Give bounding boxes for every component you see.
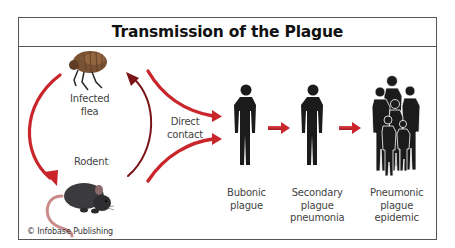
label-line: plague (227, 200, 266, 213)
label-line: plague (370, 200, 423, 213)
label-line: flea (70, 106, 109, 119)
label-line: Bubonic (227, 187, 266, 200)
curved-arrow-icon (29, 75, 60, 186)
label-line: contact (167, 129, 203, 142)
human-silhouette-icon (234, 85, 256, 166)
label-line: plague (290, 200, 344, 213)
direct-contact-label: Direct contact (167, 116, 203, 141)
right-arrow-icon (268, 122, 290, 134)
pneumonic-plague-epidemic-label: Pneumonic plague epidemic (370, 187, 423, 225)
label-line: pneumonia (290, 212, 344, 225)
flea-icon (69, 51, 107, 90)
secondary-plague-pneumonia-label: Secondary plague pneumonia (290, 187, 344, 225)
infected-flea-label: Infected flea (70, 93, 109, 118)
curved-arrow-icon (126, 72, 151, 176)
copyright-credit: © Infobase Publishing (27, 227, 113, 236)
rodent-label: Rodent (74, 156, 108, 169)
label-line: Pneumonic (370, 187, 423, 200)
label-line: Infected (70, 93, 109, 106)
label-line: epidemic (370, 212, 423, 225)
right-arrow-icon (339, 122, 361, 134)
human-silhouette-icon (301, 85, 323, 166)
crowd-silhouette-icon (372, 76, 420, 177)
label-line: Secondary (290, 187, 344, 200)
label-line: Direct (167, 116, 203, 129)
bubonic-plague-label: Bubonic plague (227, 187, 266, 212)
curved-arrow-icon (148, 71, 222, 122)
